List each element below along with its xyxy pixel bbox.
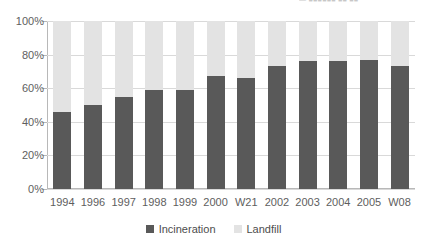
bar-stack [78,21,108,189]
x-axis-tick-label: 2004 [323,196,353,208]
x-axis-tick-label: 2005 [354,196,384,208]
bar-segment-incineration [237,78,255,189]
bar-segment-landfill [391,21,409,66]
legend-label: Incineration [159,223,216,235]
bar-segment-landfill [115,21,133,97]
x-axis-tick-label: 1997 [109,196,139,208]
x-axis-tick-label: 1994 [47,196,77,208]
bar-segment-landfill [299,21,317,61]
bar-stack [201,21,231,189]
x-axis-tick-label: 1996 [78,196,108,208]
bar-stack [323,21,353,189]
y-axis-tick-label: 100% [4,15,44,27]
y-axis-tick-label: 60% [4,82,44,94]
bar-segment-incineration [360,60,378,189]
bar-stack [231,21,261,189]
bar-stack [262,21,292,189]
legend-swatch-icon [234,225,242,233]
legend-item[interactable]: Incineration [146,223,216,235]
bar-segment-incineration [53,112,71,189]
bar-segment-landfill [237,21,255,78]
bar-stack [385,21,415,189]
plot-area [47,21,415,189]
bar-stack [109,21,139,189]
chart-container: — ■■■■■■ ■■ ■■ 100%80%60%40%20%0% 199419… [0,0,427,238]
bar-stack [293,21,323,189]
y-axis-tick-label: 80% [4,49,44,61]
bar-segment-incineration [299,61,317,189]
bar-segment-incineration [268,66,286,189]
bar-segment-incineration [84,105,102,189]
bar-segment-landfill [84,21,102,105]
bar-segment-landfill [268,21,286,66]
bar-segment-incineration [207,76,225,189]
x-axis-tick-label: W21 [231,196,261,208]
x-axis-labels: 199419961997199819992000W212002200320042… [47,196,415,208]
bar-segment-landfill [145,21,163,90]
bar-segment-incineration [176,90,194,189]
bar-group [47,21,415,189]
x-axis-tick-label: 2000 [201,196,231,208]
bar-segment-landfill [53,21,71,112]
y-axis-tick-label: 40% [4,116,44,128]
bar-segment-incineration [329,61,347,189]
x-axis-tick-label: 2003 [293,196,323,208]
legend-item[interactable]: Landfill [234,223,282,235]
cropped-header-text: — ■■■■■■ ■■ ■■ [299,0,419,4]
x-axis-tick-label: W08 [385,196,415,208]
x-axis-tick-label: 2002 [262,196,292,208]
x-axis-tick-label: 1998 [139,196,169,208]
bar-stack [139,21,169,189]
bar-segment-landfill [329,21,347,61]
legend-swatch-icon [146,225,154,233]
bar-segment-incineration [145,90,163,189]
bar-stack [170,21,200,189]
cropped-header-fragment: — ■■■■■■ ■■ ■■ [299,0,419,3]
bar-segment-landfill [176,21,194,90]
bar-stack [354,21,384,189]
bar-stack [47,21,77,189]
y-axis-tick-label: 0% [4,183,44,195]
legend-label: Landfill [247,223,282,235]
bar-segment-landfill [207,21,225,76]
y-axis-tick-label: 20% [4,149,44,161]
bar-segment-incineration [391,66,409,189]
chart-legend: IncinerationLandfill [0,223,427,235]
bar-segment-landfill [360,21,378,60]
bar-segment-incineration [115,97,133,189]
gridline [47,189,415,190]
x-axis-tick-label: 1999 [170,196,200,208]
